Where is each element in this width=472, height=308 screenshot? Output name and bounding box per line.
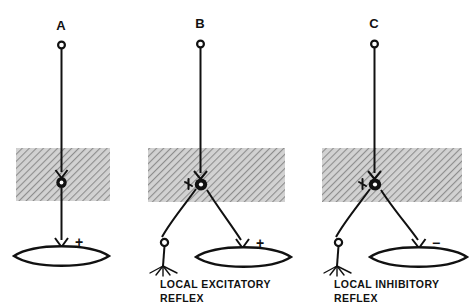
effector-sign-b: + [256, 235, 264, 251]
caption-line-2: REFLEX [160, 292, 204, 304]
effector-organ [14, 246, 109, 266]
effector-organ [370, 247, 467, 267]
motor-neuron-nucleus [60, 181, 64, 185]
caption-line-2: REFLEX [334, 292, 378, 304]
gray-matter-band [148, 148, 285, 202]
effector-sign-c: − [432, 235, 440, 251]
motor-neuron-nucleus [199, 182, 203, 186]
caption-line-1: LOCAL EXCITATORY [160, 278, 271, 290]
caption-line-1: LOCAL INHIBITORY [334, 278, 439, 290]
motor-neuron-nucleus [373, 182, 377, 186]
fiber-origin-circle [371, 41, 378, 48]
dorsal-root-ganglion-circle [335, 239, 342, 246]
effector-organ [196, 247, 291, 267]
fiber-origin-circle [58, 42, 65, 49]
dorsal-root-ganglion-circle [161, 239, 168, 246]
gray-matter-band [322, 148, 462, 202]
reflex-diagram: A + B [0, 0, 472, 308]
fiber-origin-circle [197, 41, 204, 48]
effector-sign-a: + [75, 234, 83, 250]
panel-label-a: A [56, 18, 66, 33]
panel-label-b: B [195, 16, 204, 31]
panel-label-c: C [369, 16, 379, 31]
